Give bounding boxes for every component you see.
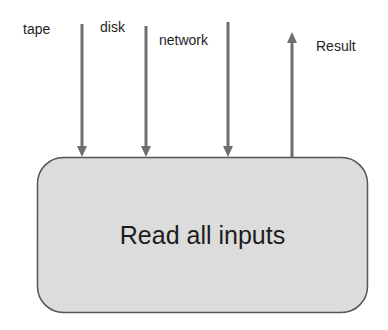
input-label-tape: tape: [23, 21, 50, 37]
output-label-result: Result: [316, 38, 356, 54]
input-label-disk: disk: [100, 19, 125, 35]
arrow-network: [223, 22, 233, 157]
arrow-disk: [141, 26, 151, 157]
arrow-tape: [77, 24, 87, 157]
process-label: Read all inputs: [37, 157, 368, 313]
input-label-network: network: [159, 32, 208, 48]
arrow-result: [287, 32, 297, 157]
process-label-text: Read all inputs: [120, 221, 285, 250]
